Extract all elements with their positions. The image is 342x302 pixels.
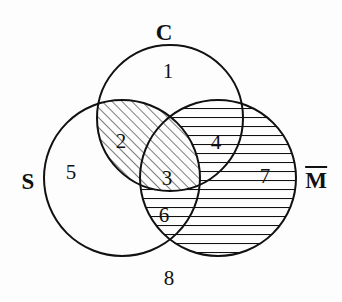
venn-diagram-figure: C S M 1 2 3 4 5 6 7 8 [0, 0, 342, 302]
venn-diagram-canvas [0, 0, 342, 302]
region-label-3: 3 [162, 168, 173, 189]
set-label-c: C [156, 21, 173, 44]
region-label-4: 4 [211, 132, 222, 153]
region-label-7: 7 [260, 166, 271, 187]
region-label-2: 2 [116, 131, 127, 152]
region-label-5: 5 [66, 162, 77, 183]
region-label-6: 6 [159, 205, 170, 226]
region-label-1: 1 [163, 61, 174, 82]
set-label-s: S [22, 170, 35, 193]
region-label-8: 8 [164, 268, 175, 289]
set-label-m-complement: M [305, 166, 327, 192]
